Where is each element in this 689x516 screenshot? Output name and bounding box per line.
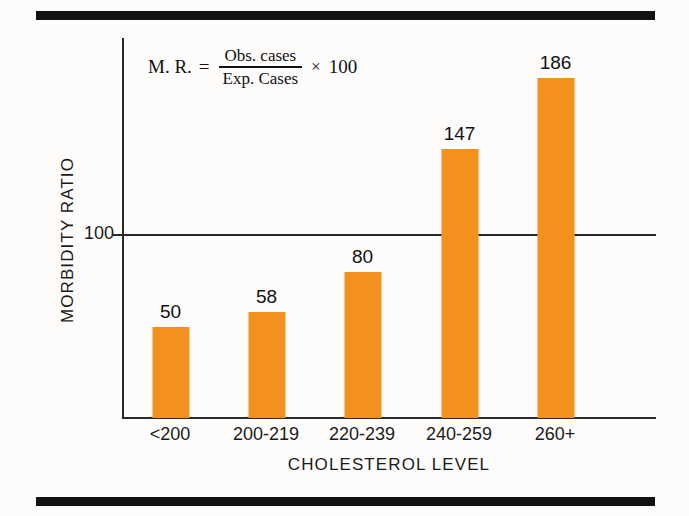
bar-slot: 147: [411, 38, 508, 418]
formula-numerator: Obs. cases: [220, 46, 300, 66]
formula-denominator: Exp. Cases: [219, 68, 303, 88]
bar-value-label: 147: [444, 123, 476, 145]
formula-lhs: M. R.: [148, 56, 192, 78]
x-axis-title: CHOLESTEROL LEVEL: [122, 455, 656, 475]
x-axis-tick-labels: <200 200-219 220-239 240-259 260+: [122, 424, 656, 450]
bar-value-label: 186: [540, 52, 572, 74]
bar-slot: 80: [314, 38, 411, 418]
bar: [537, 78, 574, 418]
formula-fraction: Obs. cases Exp. Cases: [219, 46, 303, 88]
bar-value-label: 58: [256, 286, 277, 308]
bar: [248, 312, 285, 418]
formula-times-sign: ×: [311, 57, 321, 77]
morbidity-ratio-formula: M. R. = Obs. cases Exp. Cases × 100: [148, 46, 357, 88]
y-axis-tick-label: 100: [84, 223, 114, 244]
bar-value-label: 80: [352, 246, 373, 268]
top-divider-rule: [36, 11, 655, 20]
chart-figure: MORBIDITY RATIO 100 50 58 80 147 186 <20…: [0, 0, 689, 516]
bar: [441, 149, 478, 418]
formula-equals-sign: =: [199, 56, 210, 78]
bar-slot: 186: [507, 38, 604, 418]
bar: [344, 272, 381, 418]
bar-slot: 58: [218, 38, 315, 418]
bar-slot: 50: [122, 38, 219, 418]
formula-multiplier: 100: [329, 56, 358, 78]
x-axis-tick-label: 260+: [495, 424, 615, 445]
bar-series: 50 58 80 147 186: [122, 38, 656, 418]
bar-value-label: 50: [160, 301, 181, 323]
bottom-divider-rule: [36, 497, 655, 506]
y-axis-tick-100: 100: [30, 223, 114, 247]
bar: [152, 327, 189, 418]
